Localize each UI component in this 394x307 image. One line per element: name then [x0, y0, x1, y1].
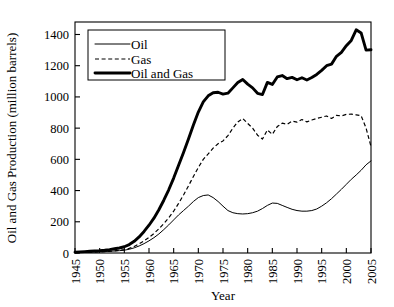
y-tick-label: 600: [50, 153, 69, 167]
x-tick-label: 2000: [340, 259, 354, 284]
x-tick-label: 1945: [69, 259, 83, 284]
legend-label-oil: Oil: [131, 37, 148, 52]
x-tick-label: 1955: [118, 259, 132, 284]
x-tick-label: 1970: [192, 259, 206, 284]
x-tick-label: 1995: [315, 259, 329, 284]
x-tick-label: 1980: [241, 259, 255, 284]
y-tick-label: 1400: [44, 28, 69, 42]
series-line-gas: [75, 114, 371, 253]
y-tick-label: 200: [50, 215, 69, 229]
y-axis-title: Oil and Gas Production (million barrels): [4, 33, 19, 244]
y-tick-label: 800: [50, 122, 69, 136]
y-tick-label: 400: [50, 184, 69, 198]
chart-page: 0200400600800100012001400 19451950195519…: [0, 0, 394, 307]
x-tick-label: 1960: [143, 259, 157, 284]
series-line-oil: [75, 161, 371, 253]
x-tick-label: 1990: [291, 259, 305, 284]
x-tick-label: 1965: [167, 259, 181, 284]
x-tick-label: 2005: [365, 259, 379, 284]
chart-legend: OilGasOil and Gas: [88, 30, 225, 81]
y-tick-label: 1200: [44, 59, 69, 73]
y-tick-label: 0: [63, 247, 69, 261]
legend-label-oil-and-gas: Oil and Gas: [131, 66, 193, 81]
oil-gas-production-chart: 0200400600800100012001400 19451950195519…: [0, 0, 394, 307]
y-tick-label: 1000: [44, 90, 69, 104]
legend-label-gas: Gas: [131, 52, 151, 67]
x-axis-title: Year: [211, 288, 236, 303]
x-tick-label: 1975: [217, 259, 231, 284]
x-tick-label: 1950: [93, 259, 107, 284]
x-tick-label: 1985: [266, 259, 280, 284]
